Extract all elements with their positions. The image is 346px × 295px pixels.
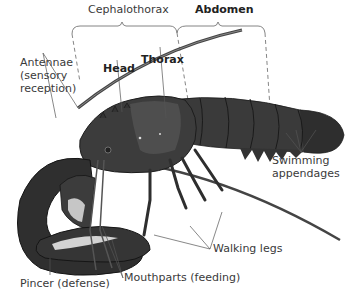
label-antennae-line1: Antennae — [20, 56, 76, 69]
label-swimming-line2: appendages — [272, 167, 340, 180]
label-swimming-appendages: Swimming appendages — [272, 154, 340, 180]
label-antennae-line2: (sensory — [20, 69, 76, 82]
label-antennae: Antennae (sensory reception) — [20, 56, 76, 95]
pincer-lower — [36, 227, 150, 263]
label-mouthparts: Mouthparts (feeding) — [124, 271, 240, 284]
lobster-diagram: Cephalothorax Abdomen Head Thorax Antenn… — [0, 0, 346, 295]
label-abdomen: Abdomen — [195, 3, 254, 16]
lobster-illustration — [0, 0, 346, 295]
label-cephalothorax: Cephalothorax — [88, 3, 169, 16]
label-antennae-line3: reception) — [20, 82, 76, 95]
label-head: Head — [103, 62, 135, 75]
label-pincer: Pincer (defense) — [20, 277, 110, 290]
label-thorax: Thorax — [141, 53, 184, 66]
label-swimming-line1: Swimming — [272, 154, 340, 167]
label-walking-legs: Walking legs — [213, 242, 282, 255]
